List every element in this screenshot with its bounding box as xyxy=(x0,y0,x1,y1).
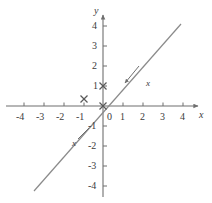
y-tick-label--1: -1 xyxy=(88,121,96,131)
plotted-line xyxy=(34,24,181,191)
y-tick-label--4: -4 xyxy=(88,181,96,191)
x-axis-label: x xyxy=(199,110,203,120)
annotation-label-lower: x xyxy=(72,139,76,148)
x-tick-label-1: 1 xyxy=(120,112,125,122)
graph-canvas xyxy=(0,0,212,203)
y-tick-label--2: -2 xyxy=(88,141,96,151)
y-tick-label-3: 3 xyxy=(92,41,97,51)
y-tick-label-4: 4 xyxy=(92,21,97,31)
x-tick-label-2: 2 xyxy=(140,112,145,122)
y-axis-label: y xyxy=(94,6,98,16)
x-tick-label--3: -3 xyxy=(36,112,44,122)
y-tick-label-2: 2 xyxy=(92,61,97,71)
x-tick-label-3: 3 xyxy=(160,112,165,122)
x-tick-label--4: -4 xyxy=(16,112,24,122)
y-tick-label--3: -3 xyxy=(88,161,96,171)
x-tick-label-4: 4 xyxy=(180,112,185,122)
marker-point-neg1-0 xyxy=(81,96,88,103)
x-tick-label--1: -1 xyxy=(76,112,84,122)
y-tick-label-1: 1 xyxy=(93,81,98,91)
axes-group xyxy=(6,15,198,197)
x-tick-label--2: -2 xyxy=(56,112,64,122)
coordinate-plane-figure: -4 -3 -2 -1 0 1 2 3 4 4 3 2 1 -1 -2 -3 -… xyxy=(0,0,212,203)
x-tick-label-0: 0 xyxy=(107,112,112,122)
annotation-label-upper: x xyxy=(146,79,150,88)
